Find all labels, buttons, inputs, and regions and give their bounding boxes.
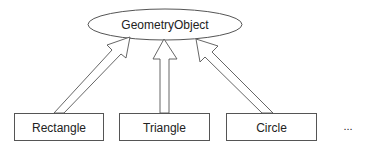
more-indicator: ... bbox=[338, 121, 358, 132]
rectangle-label: Rectangle bbox=[14, 122, 104, 134]
triangle-inheritance-arrow bbox=[153, 39, 177, 113]
rectangle-inheritance-arrow bbox=[54, 37, 130, 113]
geometry-object-label: GeometryObject bbox=[88, 19, 242, 31]
triangle-label: Triangle bbox=[119, 122, 210, 134]
circle-label: Circle bbox=[226, 122, 317, 134]
circle-inheritance-arrow bbox=[196, 39, 273, 113]
